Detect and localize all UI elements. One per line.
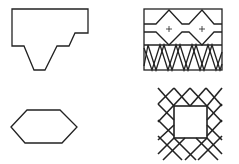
plus-icon [166, 26, 205, 32]
patterned-rectangle-shape [144, 9, 222, 70]
hexagon-shape [11, 110, 77, 143]
lattice-square-shape [158, 88, 222, 160]
notched-polygon-shape [12, 9, 88, 70]
figure-canvas [0, 0, 239, 164]
